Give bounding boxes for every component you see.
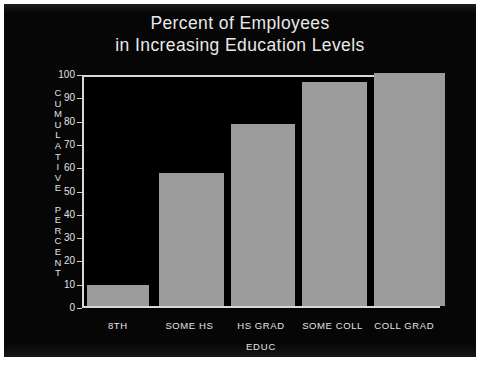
plot-area [82, 75, 440, 308]
y-tick-label-30: 30 [49, 233, 75, 243]
x-tick-label-hs-grad: HS GRAD [225, 320, 297, 331]
slide-background: Percent of Employees in Increasing Educa… [0, 0, 480, 367]
y-tick-label-20: 20 [49, 256, 75, 266]
y-tick-mark-0 [77, 308, 82, 309]
bar-series [84, 77, 438, 306]
bar-hs-grad [231, 124, 296, 306]
y-tick-label-10: 10 [49, 280, 75, 290]
x-tick-label-coll-grad: COLL GRAD [368, 320, 440, 331]
y-tick-label-60: 60 [49, 163, 75, 173]
x-tick-label-some-hs: SOME HS [154, 320, 226, 331]
y-tick-label-50: 50 [49, 187, 75, 197]
bar-some-coll [302, 82, 367, 306]
y-tick-label-70: 70 [49, 140, 75, 150]
bar-8th [87, 285, 149, 306]
chart-figure: Percent of Employees in Increasing Educa… [4, 4, 476, 357]
x-tick-label-8th: 8TH [82, 320, 154, 331]
y-tick-label-40: 40 [49, 210, 75, 220]
y-tick-label-100: 100 [49, 70, 75, 80]
y-tick-label-0: 0 [49, 303, 75, 313]
y-tick-label-80: 80 [49, 117, 75, 127]
bar-some-hs [159, 173, 224, 306]
y-tick-label-90: 90 [49, 93, 75, 103]
bar-coll-grad [374, 73, 445, 306]
x-axis-title: EDUC [82, 341, 440, 352]
chart-title: Percent of Employees in Increasing Educa… [4, 12, 476, 56]
x-tick-label-some-coll: SOME COLL [297, 320, 369, 331]
